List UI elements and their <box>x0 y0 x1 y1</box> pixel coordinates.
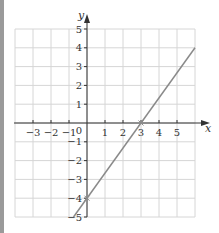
y-tick-label: 4 <box>76 42 82 53</box>
y-tick-label: 5 <box>76 24 82 35</box>
x-tick-label: 1 <box>102 127 108 138</box>
y-tick-label: 3 <box>76 61 82 72</box>
x-tick-label: −3 <box>26 127 41 138</box>
x-tick-label: 5 <box>174 127 180 138</box>
y-axis-arrow-icon <box>84 14 90 23</box>
y-tick-label: −3 <box>67 174 82 185</box>
y-tick-label: −2 <box>67 155 82 166</box>
x-tick-label: 2 <box>120 127 126 138</box>
origin-label: 0 <box>76 125 82 136</box>
x-tick-label: −2 <box>44 127 59 138</box>
x-tick-label: 3 <box>138 127 144 138</box>
chart-plot-area: xy−3−2−11234554321−1−2−3−4−50 <box>0 0 219 233</box>
y-tick-label: −4 <box>67 193 82 204</box>
y-axis-label: y <box>77 9 85 22</box>
x-tick-label: 4 <box>156 127 162 138</box>
y-tick-label: 2 <box>76 80 82 91</box>
y-tick-label: −1 <box>67 136 82 147</box>
y-tick-label: 1 <box>76 99 82 110</box>
x-axis-label: x <box>205 122 212 135</box>
y-tick-label: −5 <box>67 212 82 223</box>
